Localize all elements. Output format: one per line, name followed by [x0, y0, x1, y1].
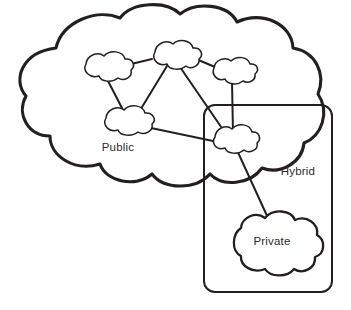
edge-top-right-to-hybrid-bridge [232, 81, 233, 133]
cloud-deployment-diagram: Public Hybrid Private [0, 0, 351, 310]
public-label: Public [102, 141, 135, 153]
public-cloud-outline [20, 5, 324, 186]
diagram-canvas: Public Hybrid Private [0, 0, 351, 310]
private-label: Private [253, 235, 290, 247]
hybrid-label: Hybrid [281, 165, 315, 177]
public-cloud-region [20, 5, 324, 186]
